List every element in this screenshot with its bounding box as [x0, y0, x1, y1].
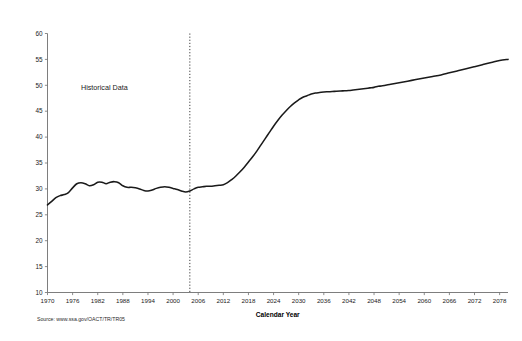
y-tick-label: 30 [35, 185, 43, 192]
y-tick-label: 60 [35, 30, 43, 37]
x-tick-label: 2048 [367, 297, 381, 304]
x-axis-ticks: 1970197619821988199420002006201220182024… [41, 293, 507, 304]
x-tick-label: 1994 [141, 297, 155, 304]
y-tick-label: 55 [35, 56, 43, 63]
y-tick-label: 20 [35, 237, 43, 244]
x-tick-label: 2060 [417, 297, 431, 304]
x-tick-label: 2024 [267, 297, 281, 304]
y-tick-label: 45 [35, 107, 43, 114]
x-tick-label: 2072 [468, 297, 482, 304]
x-axis-title: Calendar Year [256, 311, 300, 318]
x-tick-label: 2018 [242, 297, 256, 304]
x-tick-label: 2012 [216, 297, 230, 304]
source-note: Source: www.ssa.gov/OACT/TR/TR05 [37, 316, 125, 322]
y-tick-label: 10 [35, 289, 43, 296]
chart-container: 1015202530354045505560 19701976198219881… [0, 0, 522, 341]
x-tick-label: 2054 [392, 297, 406, 304]
x-tick-label: 1970 [41, 297, 55, 304]
chart-plot-svg: 1015202530354045505560 19701976198219881… [0, 0, 522, 341]
y-tick-label: 25 [35, 211, 43, 218]
x-tick-label: 2042 [342, 297, 356, 304]
y-tick-label: 50 [35, 82, 43, 89]
x-tick-label: 2066 [443, 297, 457, 304]
x-tick-label: 2078 [493, 297, 507, 304]
x-tick-label: 2000 [166, 297, 180, 304]
y-axis-ticks: 1015202530354045505560 [35, 30, 47, 296]
x-tick-label: 2030 [292, 297, 306, 304]
historical-data-annotation: Historical Data [81, 83, 128, 92]
x-tick-label: 2006 [191, 297, 205, 304]
y-tick-label: 35 [35, 159, 43, 166]
data-series-line [48, 59, 509, 205]
x-tick-label: 1982 [91, 297, 105, 304]
x-tick-label: 1976 [66, 297, 80, 304]
y-tick-label: 40 [35, 133, 43, 140]
y-tick-label: 15 [35, 263, 43, 270]
x-tick-label: 2036 [317, 297, 331, 304]
x-tick-label: 1988 [116, 297, 130, 304]
